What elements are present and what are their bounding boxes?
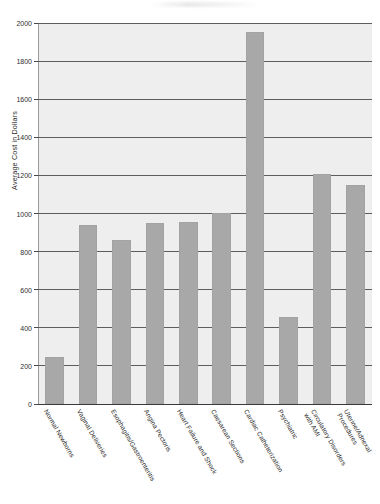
y-tick-label-1400: 1400 bbox=[0, 134, 32, 141]
bar-4 bbox=[179, 222, 198, 404]
x-axis-label-7: Psychiatric bbox=[276, 408, 299, 440]
x-axis-label-1: Vaginal Deliveries bbox=[76, 408, 110, 459]
y-tick-mark-600 bbox=[34, 289, 38, 290]
y-tick-label-600: 600 bbox=[0, 286, 32, 293]
x-label-line: Caesarean Sections bbox=[210, 408, 247, 464]
y-tick-mark-1600 bbox=[34, 99, 38, 100]
x-label-line: Cardiac Catheterization bbox=[243, 408, 285, 473]
bar-0 bbox=[45, 357, 64, 404]
bar-9 bbox=[346, 185, 365, 404]
x-axis-label-9: Uterine/AdnexalProcedures bbox=[336, 408, 373, 458]
y-tick-label-1200: 1200 bbox=[0, 172, 32, 179]
y-tick-label-1800: 1800 bbox=[0, 58, 32, 65]
y-tick-label-200: 200 bbox=[0, 362, 32, 369]
bar-7 bbox=[279, 317, 298, 404]
bar-chart-figure: Average Cost in Dollars 0200400600800100… bbox=[0, 0, 380, 504]
y-tick-mark-1000 bbox=[34, 213, 38, 214]
x-label-line: Normal Newborns bbox=[43, 408, 76, 459]
y-tick-mark-1800 bbox=[34, 61, 38, 62]
bar-1 bbox=[79, 225, 98, 404]
y-tick-mark-1200 bbox=[34, 175, 38, 176]
bar-3 bbox=[146, 223, 165, 404]
plot-area bbox=[38, 23, 372, 404]
y-tick-label-0: 0 bbox=[0, 401, 32, 408]
bar-series bbox=[38, 23, 372, 404]
y-tick-label-1000: 1000 bbox=[0, 210, 32, 217]
scan-artifact bbox=[150, 2, 260, 7]
x-label-line: Psychiatric bbox=[276, 408, 299, 440]
y-tick-mark-400 bbox=[34, 327, 38, 328]
y-tick-label-400: 400 bbox=[0, 324, 32, 331]
y-tick-label-800: 800 bbox=[0, 248, 32, 255]
y-tick-mark-800 bbox=[34, 251, 38, 252]
x-axis-label-0: Normal Newborns bbox=[42, 408, 76, 459]
y-tick-mark-1400 bbox=[34, 137, 38, 138]
x-label-line: Angina Pectoris bbox=[143, 408, 173, 453]
bar-2 bbox=[112, 240, 131, 404]
x-axis-labels: Normal NewbornsVaginal DeliveriesEsophag… bbox=[38, 404, 372, 504]
x-axis-label-5: Caesarean Sections bbox=[209, 408, 246, 465]
y-tick-mark-2000 bbox=[34, 23, 38, 24]
y-tick-label-2000: 2000 bbox=[0, 20, 32, 27]
x-axis-label-3: Angina Pectoris bbox=[142, 408, 172, 453]
y-tick-label-1600: 1600 bbox=[0, 96, 32, 103]
x-label-line: Vaginal Deliveries bbox=[76, 408, 109, 458]
y-tick-mark-200 bbox=[34, 365, 38, 366]
x-axis-label-6: Cardiac Catheterization bbox=[243, 408, 285, 473]
bar-5 bbox=[212, 213, 231, 404]
bar-6 bbox=[246, 32, 265, 404]
bar-8 bbox=[313, 174, 332, 405]
